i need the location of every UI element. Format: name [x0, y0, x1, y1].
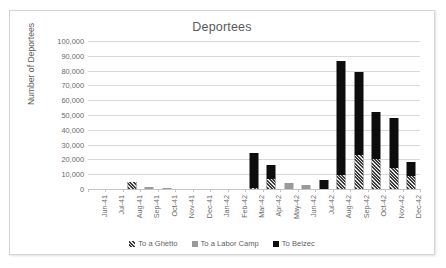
bar-slot[interactable] — [368, 41, 385, 189]
bar-segment[interactable] — [372, 112, 381, 159]
y-axis-tick-label: 100,000 — [57, 37, 84, 46]
x-axis-tick-label: May-42 — [292, 195, 301, 219]
y-axis-tick-label: 30,000 — [61, 140, 84, 149]
x-axis-tick-mark — [263, 189, 264, 192]
y-axis-tick-label: 90,000 — [61, 51, 84, 60]
bar-segment[interactable] — [249, 153, 258, 188]
x-axis-tick-label: Aug-41 — [135, 195, 144, 218]
y-axis-tick-label: 80,000 — [61, 66, 84, 75]
x-axis-tick-mark — [298, 189, 299, 192]
y-axis-tick-label: 0 — [80, 185, 84, 194]
bar-segment[interactable] — [284, 183, 293, 189]
x-axis-tick-mark — [333, 189, 334, 192]
bar-slot[interactable] — [350, 41, 367, 189]
y-axis-tick-label: 40,000 — [61, 125, 84, 134]
bar-slot[interactable] — [298, 41, 315, 189]
x-axis-tick-mark — [105, 189, 106, 192]
legend-label: To a Ghetto — [138, 239, 177, 248]
bar-series-group — [88, 41, 420, 189]
bar-segment[interactable] — [337, 175, 346, 189]
bar-segment[interactable] — [302, 185, 311, 189]
chart-legend: To a GhettoTo a Labor CampTo Belzec — [10, 239, 434, 248]
bar-segment[interactable] — [127, 182, 136, 189]
x-axis-tick-label: Sep-41 — [152, 195, 161, 218]
x-axis-tick-label: Aug-42 — [344, 195, 353, 218]
x-axis-tick-mark — [228, 189, 229, 192]
x-axis-tick-mark — [385, 189, 386, 192]
chart-title: Deportees — [10, 20, 434, 34]
bar-segment[interactable] — [249, 188, 258, 189]
x-axis-tick-label: Jul-41 — [117, 195, 126, 215]
bar-slot[interactable] — [88, 41, 105, 189]
y-axis-title: Number of Deportees — [26, 5, 36, 123]
bar-segment[interactable] — [372, 159, 381, 189]
x-axis-tick-label: Jan-42 — [222, 195, 231, 217]
legend-item[interactable]: To a Ghetto — [129, 239, 177, 248]
bar-slot[interactable] — [210, 41, 227, 189]
x-axis-tick-mark — [245, 189, 246, 192]
ghetto-swatch-icon — [129, 241, 135, 247]
bar-segment[interactable] — [407, 162, 416, 175]
labor-camp-swatch-icon — [192, 241, 198, 247]
bar-segment[interactable] — [162, 188, 171, 189]
bar-segment[interactable] — [354, 72, 363, 155]
x-axis-tick-label: Nov-42 — [397, 195, 406, 218]
belzec-swatch-icon — [273, 241, 279, 247]
legend-label: To a Labor Camp — [201, 239, 259, 248]
bar-segment[interactable] — [319, 180, 328, 189]
legend-item[interactable]: To Belzec — [273, 239, 315, 248]
x-axis-tick-label: Nov-41 — [187, 195, 196, 218]
bar-segment[interactable] — [145, 187, 154, 189]
x-axis-tick-labels: Jun-41Jul-41Aug-41Sep-41Oct-41Nov-41Dec-… — [88, 191, 420, 237]
x-axis-tick-mark — [123, 189, 124, 192]
x-axis-tick-mark — [368, 189, 369, 192]
x-axis-tick-label: Jul-42 — [327, 195, 336, 215]
bar-slot[interactable] — [263, 41, 280, 189]
x-axis-tick-label: Dec-41 — [205, 195, 214, 218]
y-axis-tick-label: 60,000 — [61, 96, 84, 105]
bar-segment[interactable] — [267, 165, 276, 178]
x-axis-tick-label: Jun-41 — [100, 195, 109, 217]
x-axis-tick-label: Sep-42 — [362, 195, 371, 218]
x-axis-tick-mark — [420, 189, 421, 192]
x-axis-tick-mark — [158, 189, 159, 192]
x-axis-tick-mark — [175, 189, 176, 192]
bar-slot[interactable] — [245, 41, 262, 189]
plot-area: 100,00090,00080,00070,00060,00050,00040,… — [88, 41, 420, 189]
bar-segment[interactable] — [407, 176, 416, 189]
bar-slot[interactable] — [333, 41, 350, 189]
chart-container: Deportees Number of Deportees 100,00090,… — [9, 10, 435, 255]
x-axis-tick-mark — [88, 189, 89, 192]
bar-slot[interactable] — [105, 41, 122, 189]
bar-slot[interactable] — [315, 41, 332, 189]
y-axis-tick-label: 70,000 — [61, 81, 84, 90]
x-axis-tick-mark — [403, 189, 404, 192]
x-axis-tick-label: Feb-42 — [240, 195, 249, 218]
x-axis-tick-mark — [210, 189, 211, 192]
bar-segment[interactable] — [354, 155, 363, 189]
x-axis-tick-label: Oct-41 — [170, 195, 179, 217]
x-axis-tick-mark — [280, 189, 281, 192]
bar-segment[interactable] — [389, 118, 398, 168]
bar-segment[interactable] — [389, 168, 398, 189]
y-axis-tick-label: 50,000 — [61, 111, 84, 120]
x-axis-tick-mark — [315, 189, 316, 192]
gridline — [88, 189, 420, 190]
legend-label: To Belzec — [282, 239, 315, 248]
bar-slot[interactable] — [193, 41, 210, 189]
x-axis-tick-label: Oct-42 — [379, 195, 388, 217]
legend-item[interactable]: To a Labor Camp — [192, 239, 259, 248]
bar-slot[interactable] — [175, 41, 192, 189]
bar-slot[interactable] — [280, 41, 297, 189]
bar-segment[interactable] — [337, 61, 346, 175]
bar-slot[interactable] — [385, 41, 402, 189]
bar-slot[interactable] — [158, 41, 175, 189]
bar-slot[interactable] — [123, 41, 140, 189]
y-axis-tick-label: 10,000 — [61, 170, 84, 179]
bar-slot[interactable] — [228, 41, 245, 189]
x-axis-tick-label: Dec-42 — [414, 195, 423, 218]
bar-segment[interactable] — [267, 179, 276, 189]
bar-slot[interactable] — [140, 41, 157, 189]
x-axis-tick-mark — [140, 189, 141, 192]
bar-slot[interactable] — [403, 41, 420, 189]
